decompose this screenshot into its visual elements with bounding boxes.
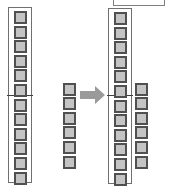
right-top-box bbox=[113, 0, 165, 6]
right-arrow-icon bbox=[80, 86, 106, 104]
stack-block bbox=[14, 172, 27, 185]
stack-block bbox=[135, 126, 148, 139]
stack-block bbox=[14, 55, 27, 68]
stack-block bbox=[14, 113, 27, 126]
stack-block bbox=[14, 142, 27, 155]
stack-block bbox=[114, 56, 127, 69]
stack-block bbox=[14, 40, 27, 53]
stack-block bbox=[114, 114, 127, 127]
stack-block bbox=[135, 112, 148, 125]
stack-block bbox=[135, 97, 148, 110]
stack-block bbox=[114, 173, 127, 186]
stack-block bbox=[14, 128, 27, 141]
stack-block bbox=[63, 83, 76, 96]
stack-block bbox=[14, 26, 27, 39]
stack-block bbox=[63, 112, 76, 125]
stack-block bbox=[63, 156, 76, 169]
stack-block bbox=[14, 157, 27, 170]
stack-block bbox=[114, 143, 127, 156]
stack-block bbox=[14, 84, 27, 97]
stack-block bbox=[63, 141, 76, 154]
stack-block bbox=[114, 27, 127, 40]
stack-block bbox=[114, 158, 127, 171]
stack-block bbox=[135, 156, 148, 169]
stack-block bbox=[63, 97, 76, 110]
stack-block bbox=[114, 129, 127, 142]
stack-block bbox=[114, 70, 127, 83]
stack-block bbox=[14, 69, 27, 82]
stack-block bbox=[63, 126, 76, 139]
stack-block bbox=[135, 141, 148, 154]
stack-block bbox=[135, 83, 148, 96]
stack-block bbox=[114, 12, 127, 25]
stack-block bbox=[114, 85, 127, 98]
stack-block bbox=[114, 100, 127, 113]
stack-block bbox=[14, 99, 27, 112]
stack-block bbox=[114, 41, 127, 54]
stack-block bbox=[14, 11, 27, 24]
